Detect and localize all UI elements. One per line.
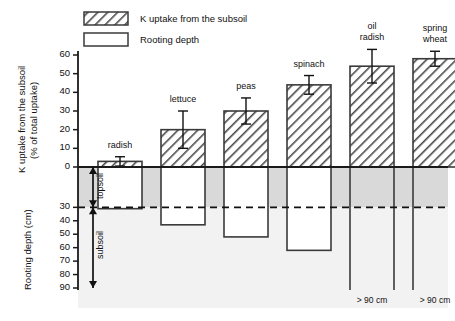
y-tick-uptake-50: 50 <box>48 67 70 78</box>
bar-category-label-peas: peas <box>206 82 286 91</box>
topsoil-label: topsoil <box>95 173 105 199</box>
y-axis-title-uptake-unit: (% of total uptake) <box>28 82 39 159</box>
subsoil-label: subsoil <box>95 231 105 259</box>
legend-label-k-uptake: K uptake from the subsoil <box>140 13 247 24</box>
bar-category-label-lettuce: lettuce <box>143 95 223 104</box>
y-tick-uptake-10: 10 <box>48 141 70 152</box>
chart-figure: 010203040506030405060708090topsoilsubsoi… <box>0 0 455 321</box>
y-tick-depth-80: 80 <box>48 268 70 279</box>
y-axis-title-depth: Rooting depth (cm) <box>22 209 33 290</box>
y-tick-depth-30: 30 <box>48 200 70 211</box>
y-axis-title-uptake: K uptake from the subsoil <box>16 66 27 173</box>
y-tick-uptake-20: 20 <box>48 123 70 134</box>
y-tick-depth-50: 50 <box>48 227 70 238</box>
legend-swatches <box>84 12 128 46</box>
y-tick-uptake-0: 0 <box>48 160 70 171</box>
y-tick-uptake-60: 60 <box>48 48 70 59</box>
y-tick-depth-90: 90 <box>48 281 70 292</box>
legend-label-rooting-depth: Rooting depth <box>140 34 199 45</box>
bar-category-label-spinach: spinach <box>269 60 349 69</box>
y-tick-depth-70: 70 <box>48 254 70 265</box>
y-tick-uptake-30: 30 <box>48 104 70 115</box>
y-tick-depth-40: 40 <box>48 214 70 225</box>
y-tick-depth-60: 60 <box>48 241 70 252</box>
depth-value-label-spring-wheat: > 90 cm <box>395 295 455 305</box>
bar-category-label-spring-wheat: wheat <box>395 35 455 44</box>
y-tick-uptake-40: 40 <box>48 85 70 96</box>
bar-category-label-radish: radish <box>80 141 160 150</box>
bar-category-label-spring-wheat: spring <box>395 24 455 33</box>
